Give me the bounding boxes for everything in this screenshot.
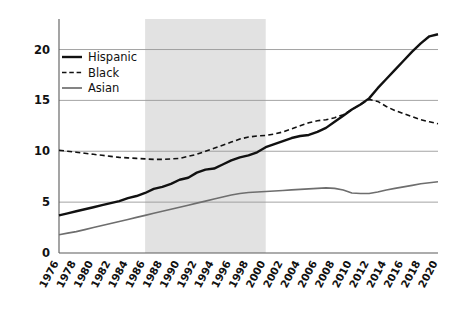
legend-label-asian: Asian [88, 81, 119, 95]
y-tick-label: 10 [34, 144, 50, 158]
y-tick-label: 5 [42, 195, 50, 209]
y-axis-tick-labels: 05101520 [34, 43, 50, 260]
chart-container: 05101520 1976197819801982198419861988199… [0, 0, 458, 309]
x-axis-tick-labels: 1976197819801982198419861988199019921994… [36, 258, 439, 289]
line-chart: 05101520 1976197819801982198419861988199… [0, 0, 458, 309]
y-tick-label: 15 [34, 93, 50, 107]
chart-legend: HispanicBlackAsian [62, 50, 137, 95]
y-tick-label: 0 [42, 246, 50, 260]
shaded-band-rect [145, 19, 266, 253]
shaded-recession-band [145, 19, 266, 253]
legend-label-hispanic: Hispanic [88, 50, 137, 64]
legend-label-black: Black [88, 66, 119, 80]
y-tick-label: 20 [34, 43, 50, 57]
